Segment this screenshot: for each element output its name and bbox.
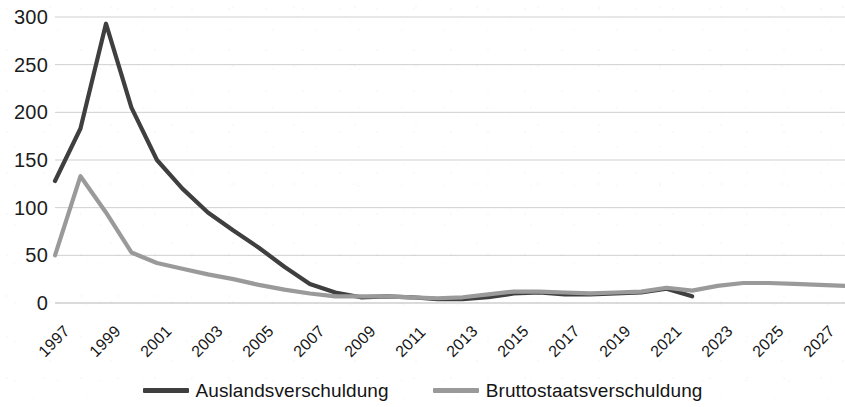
x-tick-label: 2005 (239, 322, 277, 360)
x-tick-label: 2003 (188, 322, 226, 360)
x-tick-label: 2021 (647, 322, 685, 360)
x-tick-label: 2025 (749, 322, 787, 360)
x-tick-label: 2001 (137, 322, 175, 360)
x-tick-label: 2009 (341, 322, 379, 360)
legend-swatch-icon (433, 388, 479, 393)
chart-legend: AuslandsverschuldungBruttostaatsverschul… (0, 381, 845, 400)
x-tick-label: 2027 (800, 322, 838, 360)
x-tick-label: 2011 (392, 323, 430, 361)
x-tick-label: 1997 (35, 322, 73, 360)
x-tick-label: 2007 (290, 322, 328, 360)
x-tick-label: 2019 (596, 322, 634, 360)
legend-item-1[interactable]: Auslandsverschuldung (143, 381, 389, 400)
legend-item-2[interactable]: Bruttostaatsverschuldung (433, 381, 703, 400)
legend-label: Bruttostaatsverschuldung (486, 381, 703, 400)
x-tick-label: 2017 (545, 322, 583, 360)
x-axis-tick-labels: 1997199920012003200520072009201120132015… (0, 0, 845, 407)
x-tick-label: 2023 (698, 322, 736, 360)
legend-swatch-icon (143, 388, 189, 393)
legend-label: Auslandsverschuldung (196, 381, 389, 400)
line-chart: 050100150200250300 199719992001200320052… (0, 0, 845, 407)
x-tick-label: 2013 (443, 322, 481, 360)
x-tick-label: 2015 (494, 322, 532, 360)
x-tick-label: 1999 (86, 322, 124, 360)
